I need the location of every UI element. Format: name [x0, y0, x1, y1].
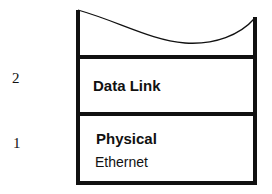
divider-datalink-physical — [76, 112, 257, 116]
layer-label-data-link: Data Link — [93, 78, 161, 93]
bottom-border — [76, 181, 257, 185]
torn-top-edge — [78, 10, 255, 43]
layer-number-1: 1 — [13, 136, 21, 151]
left-border — [76, 10, 80, 185]
layer-detail-ethernet: Ethernet — [95, 155, 148, 169]
divider-top-datalink — [76, 55, 257, 59]
layer-label-physical: Physical — [96, 131, 157, 146]
layer-number-2: 2 — [12, 71, 20, 86]
right-border — [253, 17, 257, 185]
